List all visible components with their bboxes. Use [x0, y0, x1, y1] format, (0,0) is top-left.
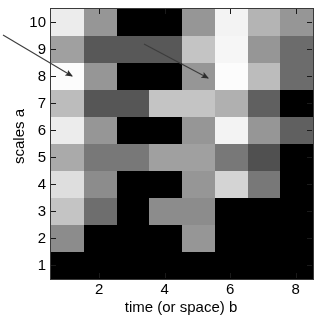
- y-tick-right-6: [307, 130, 312, 131]
- wavelet-scalogram-figure: 12345678910 2468 scales a time (or space…: [0, 0, 323, 317]
- y-tick-10: [51, 22, 56, 23]
- y-tick-right-5: [307, 157, 312, 158]
- x-tick-2: [99, 273, 100, 278]
- y-tick-1: [51, 265, 56, 266]
- x-tick-label-4: 4: [150, 281, 180, 296]
- y-tick-6: [51, 130, 56, 131]
- x-tick-label-6: 6: [215, 281, 245, 296]
- y-tick-label-9: 9: [16, 41, 46, 56]
- y-tick-2: [51, 238, 56, 239]
- y-tick-right-8: [307, 76, 312, 77]
- x-axis-title: time (or space) b: [50, 298, 312, 315]
- y-axis-title: scales a: [10, 72, 27, 202]
- y-tick-label-2: 2: [16, 230, 46, 245]
- y-tick-label-10: 10: [16, 14, 46, 29]
- heatmap-image: [51, 9, 313, 279]
- y-tick-4: [51, 184, 56, 185]
- x-tick-top-6: [230, 9, 231, 14]
- y-tick-9: [51, 49, 56, 50]
- y-tick-5: [51, 157, 56, 158]
- y-tick-3: [51, 211, 56, 212]
- x-tick-4: [165, 273, 166, 278]
- y-tick-label-3: 3: [16, 203, 46, 218]
- x-tick-label-8: 8: [281, 281, 311, 296]
- y-tick-7: [51, 103, 56, 104]
- y-tick-right-4: [307, 184, 312, 185]
- y-tick-right-10: [307, 22, 312, 23]
- x-tick-8: [296, 273, 297, 278]
- x-tick-top-8: [296, 9, 297, 14]
- x-tick-top-2: [99, 9, 100, 14]
- y-tick-label-1: 1: [16, 257, 46, 272]
- y-tick-right-9: [307, 49, 312, 50]
- x-tick-top-4: [165, 9, 166, 14]
- y-tick-right-2: [307, 238, 312, 239]
- y-tick-right-7: [307, 103, 312, 104]
- y-tick-8: [51, 76, 56, 77]
- x-tick-6: [230, 273, 231, 278]
- heatmap-plot-area: [50, 8, 314, 280]
- y-tick-right-1: [307, 265, 312, 266]
- y-tick-right-3: [307, 211, 312, 212]
- x-tick-label-2: 2: [84, 281, 114, 296]
